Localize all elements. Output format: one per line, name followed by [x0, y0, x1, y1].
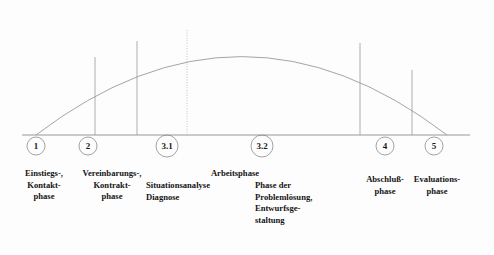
node-number-3-1: 3.1	[152, 138, 182, 155]
group-heading-arbeitsphase: Arbeitsphase	[175, 168, 295, 180]
diagram-canvas: 123.13.245 ArbeitsphaseEinstiegs-, Konta…	[0, 0, 494, 255]
phase-arc	[36, 57, 447, 135]
node-number-1: 1	[21, 138, 51, 155]
node-number-3-2: 3.2	[247, 138, 277, 155]
label-phase-problemloesung: Phase der Problemlösung, Entwurfsge- sta…	[255, 180, 335, 226]
node-number-4: 4	[370, 138, 400, 155]
label-evaluationsphase: Evaluations- phase	[404, 174, 470, 197]
node-number-5: 5	[419, 138, 449, 155]
label-einstiegs-kontaktphase: Einstiegs-, Kontakt- phase	[12, 168, 76, 203]
label-situationsanalyse-diagnose: Situationsanalyse Diagnose	[146, 180, 228, 203]
node-number-2: 2	[73, 138, 103, 155]
phase-arc-diagram-graphic	[0, 0, 494, 255]
label-vereinbarungs-kontraktphase: Vereinbarungs-, Kontrakt- phase	[74, 168, 150, 203]
